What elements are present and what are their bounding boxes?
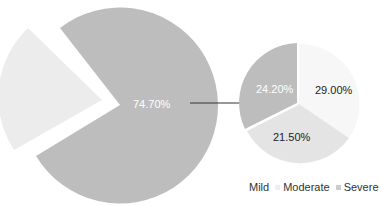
legend-label-mild: Mild [249, 181, 269, 193]
legend-swatch-moderate [275, 185, 280, 190]
legend-item-severe[interactable]: Severe [336, 181, 379, 193]
legend-swatch-severe [336, 185, 341, 190]
legend-item-moderate[interactable]: Moderate [275, 181, 329, 193]
legend-swatch-mild [241, 185, 246, 190]
legend-label-moderate: Moderate [283, 181, 329, 193]
label-moderate-pct: 21.50% [273, 131, 311, 143]
label-severe-pct: 29.00% [315, 84, 353, 96]
pie-of-pie-chart: 74.70% 24.20% 29.00% 21.50% [0, 0, 381, 206]
legend-item-mild[interactable]: Mild [241, 181, 269, 193]
label-mild-pct: 24.20% [256, 83, 294, 95]
legend-label-severe: Severe [344, 181, 379, 193]
legend: Mild Moderate Severe [241, 181, 379, 193]
label-main-pct: 74.70% [133, 98, 171, 110]
